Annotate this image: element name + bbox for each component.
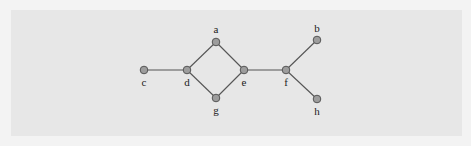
node-b [313, 36, 321, 44]
edge-d-g [187, 70, 216, 98]
node-h [313, 95, 321, 103]
edge-f-b [286, 40, 317, 70]
node-label-h: h [314, 105, 320, 117]
node-d [183, 66, 191, 74]
node-label-c: c [142, 76, 147, 88]
node-g [212, 94, 220, 102]
node-f [282, 66, 290, 74]
node-label-f: f [284, 76, 288, 88]
node-label-b: b [314, 22, 320, 34]
edge-d-a [187, 42, 216, 70]
node-e [240, 66, 248, 74]
graph-diagram: a b c d e f g h [0, 0, 471, 146]
node-label-e: e [242, 76, 247, 88]
node-c [140, 66, 148, 74]
edges [144, 40, 317, 99]
node-label-a: a [214, 23, 219, 35]
node-label-d: d [184, 76, 190, 88]
node-label-g: g [213, 104, 219, 116]
node-a [212, 38, 220, 46]
edge-g-e [216, 70, 244, 98]
edge-a-e [216, 42, 244, 70]
edge-f-h [286, 70, 317, 99]
